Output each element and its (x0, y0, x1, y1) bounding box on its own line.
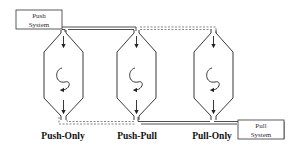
dashed-bottom-line (59, 117, 136, 124)
dashed-top-line (140, 27, 216, 33)
push-pull-vessel (117, 30, 156, 120)
label-pull-only: Pull-Only (192, 131, 232, 141)
label-push-pull: Push-Pull (117, 131, 157, 141)
pull-system-label-line2: System (251, 131, 272, 139)
pull-only-vessel (194, 30, 233, 120)
push-system-label-line2: System (29, 21, 50, 29)
push-system-label-line1: Push (32, 12, 46, 20)
pull-system-box: Pull System (238, 120, 284, 139)
push-system-box: Push System (16, 10, 62, 29)
label-push-only: Push-Only (41, 131, 84, 141)
push-only-vessel (44, 30, 83, 120)
pull-system-label-line1: Pull (255, 122, 266, 130)
push-boundary-line (62, 27, 136, 32)
